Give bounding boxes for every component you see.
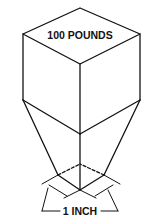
diagram-svg: 100 POUNDS 1 INCH: [0, 0, 155, 224]
pressure-diagram: 100 POUNDS 1 INCH: [0, 0, 155, 224]
tapered-column: [23, 100, 140, 190]
weight-label: 100 POUNDS: [47, 29, 112, 41]
base-square: [58, 164, 104, 190]
dimension-label: 1 INCH: [63, 205, 97, 217]
weight-cube: [23, 8, 140, 134]
